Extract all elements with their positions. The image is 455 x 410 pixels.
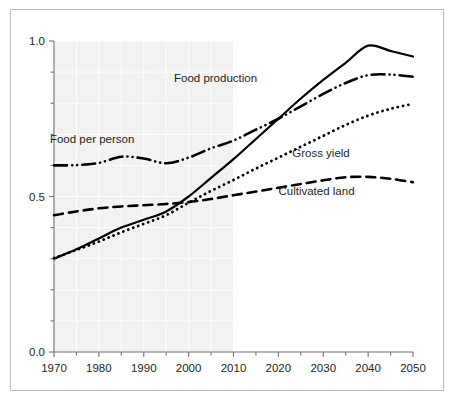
y-tick-label: 0.0 — [29, 346, 45, 358]
line-chart: 0.00.51.0 197019801990200020102020203020… — [0, 0, 455, 410]
y-axis-tick-labels: 0.00.51.0 — [29, 35, 45, 358]
x-axis-tick-labels: 197019801990200020102020203020402050 — [41, 362, 426, 374]
x-tick-label: 2040 — [355, 362, 381, 374]
figure-container: 0.00.51.0 197019801990200020102020203020… — [0, 0, 455, 410]
x-tick-label: 2010 — [221, 362, 247, 374]
series-label-gross-yield: Gross yield — [292, 147, 350, 159]
x-tick-label: 1970 — [41, 362, 67, 374]
y-tick-label: 1.0 — [29, 35, 45, 47]
x-tick-label: 2050 — [400, 362, 426, 374]
series-label-food-production: Food production — [174, 72, 257, 84]
x-tick-label: 1990 — [131, 362, 157, 374]
series-label-food-per-person: Food per person — [50, 133, 134, 145]
y-tick-label: 0.5 — [29, 191, 45, 203]
x-tick-label: 1980 — [86, 362, 112, 374]
y-axis-ticks — [49, 41, 54, 352]
series-label-cultivated-land: Cultivated land — [278, 185, 354, 197]
x-tick-label: 2000 — [176, 362, 202, 374]
x-tick-label: 2030 — [310, 362, 336, 374]
x-axis-ticks — [54, 352, 413, 357]
x-tick-label: 2020 — [266, 362, 292, 374]
